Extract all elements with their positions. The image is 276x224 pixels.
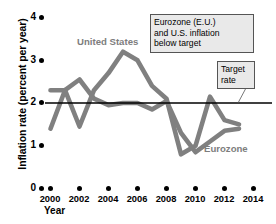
series-label-eurozone: Eurozone: [204, 143, 248, 154]
target-rate-annotation-line-2: rate: [221, 75, 251, 86]
target-rate-leader-line: [238, 88, 246, 103]
target-rate-annotation-line-1: Target: [221, 64, 251, 75]
series-label-united-states: United States: [77, 36, 138, 47]
series-line-eurozone: [51, 80, 240, 153]
below-target-annotation-line-2: and U.S. inflation: [154, 28, 250, 39]
below-target-annotation-line-1: Eurozone (E.U.): [154, 17, 250, 28]
below-target-annotation-line-3: below target: [154, 38, 250, 49]
inflation-rate-chart: Inflation rate (percent per year) Year 4…: [0, 0, 276, 224]
below-target-annotation: Eurozone (E.U.) and U.S. inflation below…: [150, 14, 254, 53]
target-rate-annotation: Target rate: [217, 61, 255, 89]
